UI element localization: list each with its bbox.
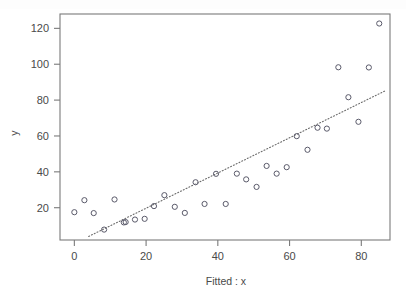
data-point (172, 204, 177, 209)
y-tick-label: 100 (31, 58, 49, 70)
data-points (72, 21, 382, 232)
data-point (112, 197, 117, 202)
data-point (132, 217, 137, 222)
data-point (336, 65, 341, 70)
data-point (346, 95, 351, 100)
x-axis-title: Fitted : x (206, 275, 247, 287)
y-tick-label: 80 (37, 94, 49, 106)
data-point (162, 193, 167, 198)
data-point (213, 171, 218, 176)
fitted-regression-line (89, 90, 387, 236)
data-point (244, 177, 249, 182)
data-point (202, 201, 207, 206)
x-tick-label: 0 (71, 250, 77, 262)
data-point (254, 184, 259, 189)
data-point (356, 119, 361, 124)
y-tick-label: 60 (37, 130, 49, 142)
data-point (284, 165, 289, 170)
data-point (324, 126, 329, 131)
x-axis-ticks: 020406080 (71, 240, 367, 262)
y-axis-ticks: 20406080100120 (31, 22, 60, 213)
data-point (91, 210, 96, 215)
data-point (264, 163, 269, 168)
y-axis-title: y (8, 130, 20, 136)
data-point (182, 210, 187, 215)
x-tick-label: 20 (140, 250, 152, 262)
data-point (315, 125, 320, 130)
data-point (234, 171, 239, 176)
scan-top-margin (0, 0, 406, 9)
y-tick-label: 40 (37, 166, 49, 178)
data-point (294, 134, 299, 139)
data-point (72, 210, 77, 215)
x-tick-label: 80 (355, 250, 367, 262)
y-tick-label: 120 (31, 22, 49, 34)
scatter-plot: 020406080 20406080100120 Fitted : x y (0, 0, 406, 292)
data-point (305, 147, 310, 152)
x-tick-label: 40 (212, 250, 224, 262)
figure-container: 020406080 20406080100120 Fitted : x y (0, 0, 406, 292)
x-tick-label: 60 (283, 250, 295, 262)
data-point (377, 21, 382, 26)
data-point (223, 201, 228, 206)
data-point (274, 171, 279, 176)
fit-line (89, 90, 387, 236)
y-tick-label: 20 (37, 202, 49, 214)
data-point (82, 198, 87, 203)
data-point (366, 65, 371, 70)
data-point (142, 216, 147, 221)
